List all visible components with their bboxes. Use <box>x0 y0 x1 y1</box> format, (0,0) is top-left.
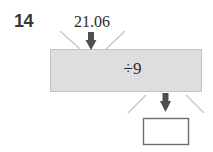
output-funnel-line-left <box>128 95 146 113</box>
arrow-down-icon <box>160 93 171 112</box>
arrow-down-icon <box>86 32 97 50</box>
machine-operation-label: ÷9 <box>95 59 170 79</box>
input-funnel-line-right <box>106 31 125 49</box>
function-machine-problem: 14 21.06 ÷9 <box>0 0 213 152</box>
output-funnel-line-right <box>186 95 204 113</box>
input-funnel-line-left <box>60 31 80 49</box>
answer-value[interactable] <box>143 119 189 145</box>
